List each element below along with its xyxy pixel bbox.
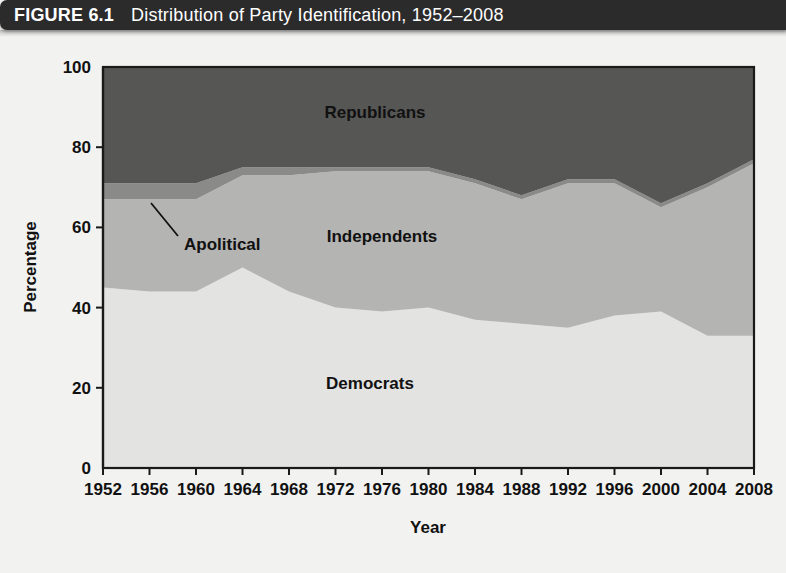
x-axis-title: Year [410,518,446,537]
x-tick-label: 2000 [642,480,680,499]
x-axis: 1952195619601964196819721976198019841988… [84,468,773,499]
x-tick-label: 1960 [177,480,215,499]
y-tick-label: 0 [82,459,91,478]
series-label-independents: Independents [327,227,438,246]
x-tick-label: 1996 [596,480,634,499]
x-tick-label: 1980 [410,480,448,499]
y-axis-title: Percentage [21,221,40,313]
x-tick-label: 2008 [735,480,773,499]
y-tick-label: 40 [72,299,91,318]
y-axis: 020406080100 [63,58,103,478]
stacked-area-chart: 020406080100 195219561960196419681972197… [0,37,786,573]
figure-title-banner: FIGURE 6.1 Distribution of Party Identif… [0,0,786,30]
x-tick-label: 1972 [317,480,355,499]
x-tick-label: 1976 [363,480,401,499]
series-label-republicans: Republicans [324,103,425,122]
y-tick-label: 20 [72,379,91,398]
figure-root: FIGURE 6.1 Distribution of Party Identif… [0,0,786,573]
y-tick-label: 80 [72,138,91,157]
area-series-group [103,67,754,468]
x-tick-label: 1964 [224,480,262,499]
x-tick-label: 1968 [270,480,308,499]
series-label-democrats: Democrats [326,374,414,393]
figure-title: Distribution of Party Identification, 19… [131,5,504,26]
x-tick-label: 1952 [84,480,122,499]
figure-number: FIGURE 6.1 [14,5,114,26]
y-tick-label: 100 [63,58,91,77]
y-tick-label: 60 [72,218,91,237]
apolitical-label: Apolitical [184,235,261,254]
x-tick-label: 1984 [456,480,494,499]
x-tick-label: 1992 [549,480,587,499]
chart-svg: 020406080100 195219561960196419681972197… [0,37,786,573]
x-tick-label: 1988 [503,480,541,499]
x-tick-label: 2004 [689,480,727,499]
x-tick-label: 1956 [131,480,169,499]
banner-shadow [0,30,786,37]
